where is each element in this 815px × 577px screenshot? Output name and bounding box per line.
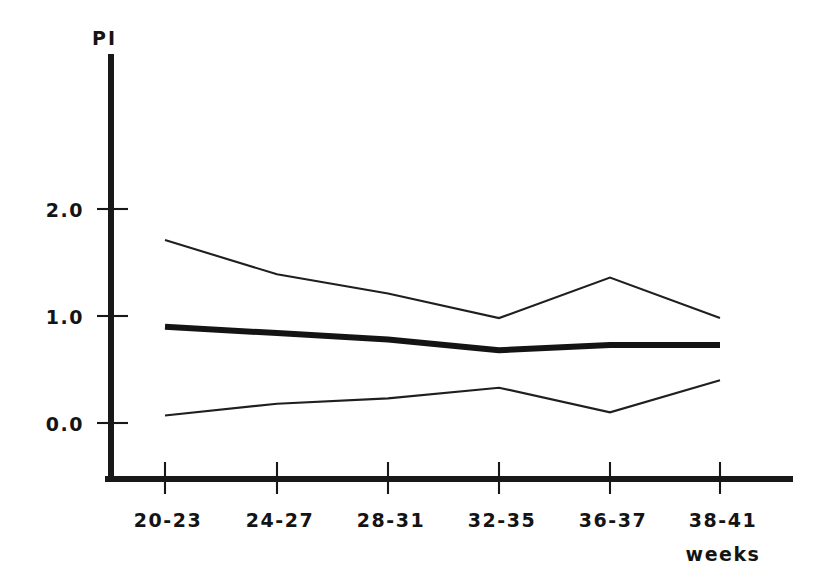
y-tick-label-1: 1.0: [46, 306, 84, 328]
x-axis-title: weeks: [686, 543, 761, 565]
x-tick-label-4: 36-37: [579, 509, 647, 531]
series-lower-reference-limit: [165, 380, 720, 415]
pi-weeks-line-chart: PI 2.0 1.0 0.0 20-23 24-27 28-31: [0, 0, 815, 577]
series-layer: [165, 240, 720, 416]
x-tick-label-2: 28-31: [357, 509, 425, 531]
x-tick-label-5: 38-41: [689, 509, 757, 531]
x-tick-label-0: 20-23: [134, 509, 202, 531]
chart-canvas: PI 2.0 1.0 0.0 20-23 24-27 28-31: [0, 0, 815, 577]
x-tick-label-3: 32-35: [468, 509, 536, 531]
y-tick-labels: 2.0 1.0 0.0: [46, 199, 84, 435]
series-mean: [165, 327, 720, 351]
x-tick-label-1: 24-27: [246, 509, 314, 531]
y-tick-label-0: 0.0: [46, 413, 84, 435]
y-tick-label-2: 2.0: [46, 199, 84, 221]
series-upper-reference-limit: [165, 240, 720, 318]
y-axis-group: PI: [92, 27, 117, 479]
y-axis-title: PI: [92, 27, 117, 49]
x-tick-labels: 20-23 24-27 28-31 32-35 36-37 38-41: [134, 509, 757, 531]
